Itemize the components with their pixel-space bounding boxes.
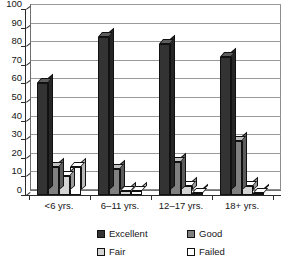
legend-swatch-icon bbox=[97, 230, 105, 238]
bar-face bbox=[159, 44, 170, 195]
x-axis-tick-mark bbox=[90, 196, 91, 200]
y-axis-tick-label: 10 bbox=[0, 166, 22, 176]
bar-side bbox=[48, 74, 53, 190]
plot-area bbox=[25, 4, 281, 196]
legend-item-fair[interactable]: Fair bbox=[97, 246, 125, 257]
gridline bbox=[30, 4, 281, 5]
y-axis-tick-label: 60 bbox=[0, 73, 22, 83]
y-axis-tick-mark bbox=[21, 46, 26, 47]
x-axis-tick-label: 6–11 yrs. bbox=[90, 200, 150, 211]
legend-swatch-icon bbox=[187, 248, 195, 256]
gridline bbox=[30, 60, 281, 61]
legend-label: Good bbox=[199, 228, 222, 239]
y-axis-tick-label: 100 bbox=[0, 0, 22, 9]
y-axis-tick-label: 20 bbox=[0, 148, 22, 158]
x-axis-tick-label: 12–17 yrs. bbox=[151, 200, 211, 211]
gridline bbox=[30, 78, 281, 79]
bar-fair-2 bbox=[120, 191, 131, 195]
y-axis-tick-mark bbox=[21, 83, 26, 84]
chart-legend: ExcellentFairGoodFailed bbox=[97, 228, 277, 262]
y-axis-tick-mark bbox=[21, 176, 26, 177]
bar-side bbox=[109, 28, 114, 190]
gridline bbox=[30, 41, 281, 42]
y-axis: 0102030405060708090100 bbox=[0, 0, 22, 210]
gridline bbox=[30, 23, 281, 24]
bar-face bbox=[131, 191, 142, 195]
x-axis-line bbox=[25, 195, 281, 196]
bar-failed-2 bbox=[131, 191, 142, 195]
x-axis-tick-mark bbox=[29, 196, 30, 200]
y-axis-tick-mark bbox=[21, 139, 26, 140]
x-axis: <6 yrs.6–11 yrs.12–17 yrs.18+ yrs. bbox=[25, 200, 281, 216]
bar-excellent-2 bbox=[98, 37, 109, 195]
y-axis-tick-label: 40 bbox=[0, 111, 22, 121]
bar-face bbox=[98, 37, 109, 195]
gridline bbox=[30, 97, 281, 98]
x-axis-tick-label: 18+ yrs. bbox=[212, 200, 272, 211]
x-axis-tick-mark bbox=[151, 196, 152, 200]
x-axis-tick-mark bbox=[212, 196, 213, 200]
bar-face bbox=[120, 191, 131, 195]
bar-excellent-3 bbox=[159, 44, 170, 195]
x-axis-tick-mark bbox=[273, 196, 274, 200]
y-axis-tick-label: 70 bbox=[0, 55, 22, 65]
legend-label: Excellent bbox=[109, 228, 148, 239]
bar-side bbox=[170, 35, 175, 190]
y-axis-tick-label: 90 bbox=[0, 18, 22, 28]
y-axis-back-line bbox=[30, 4, 31, 190]
y-axis-tick-label: 80 bbox=[0, 36, 22, 46]
y-axis-tick-label: 0 bbox=[0, 185, 22, 195]
bar-excellent-1 bbox=[37, 83, 48, 195]
bar-side bbox=[231, 48, 236, 190]
bar-face bbox=[192, 193, 203, 195]
bar-chart: 0102030405060708090100 <6 yrs.6–11 yrs.1… bbox=[0, 0, 295, 264]
legend-item-good[interactable]: Good bbox=[187, 228, 222, 239]
legend-label: Fair bbox=[109, 246, 125, 257]
y-axis-tick-label: 50 bbox=[0, 92, 22, 102]
bar-face bbox=[253, 193, 264, 195]
legend-swatch-icon bbox=[187, 230, 195, 238]
y-axis-tick-label: 30 bbox=[0, 129, 22, 139]
legend-item-failed[interactable]: Failed bbox=[187, 246, 225, 257]
x-axis-tick-label: <6 yrs. bbox=[29, 200, 89, 211]
bar-failed-4 bbox=[253, 193, 264, 195]
bar-excellent-4 bbox=[220, 57, 231, 195]
gridline bbox=[30, 116, 281, 117]
bar-failed-3 bbox=[192, 193, 203, 195]
bar-face bbox=[37, 83, 48, 195]
legend-swatch-icon bbox=[97, 248, 105, 256]
bar-side bbox=[242, 132, 247, 190]
legend-item-excellent[interactable]: Excellent bbox=[97, 228, 148, 239]
bar-face bbox=[220, 57, 231, 195]
legend-label: Failed bbox=[199, 246, 225, 257]
